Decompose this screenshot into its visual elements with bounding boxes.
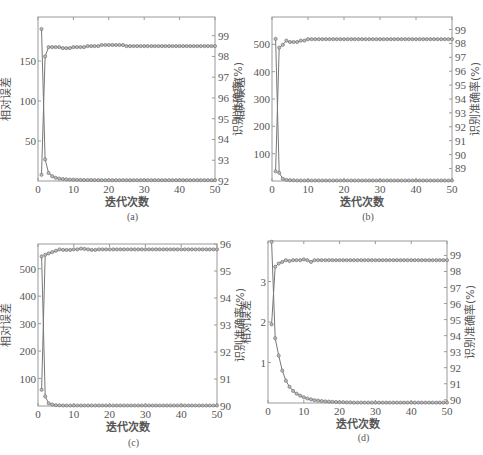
data-point-marker: [75, 178, 78, 181]
x-tick-label: 30: [140, 408, 152, 420]
data-point-marker: [378, 179, 381, 182]
data-point-marker: [396, 179, 399, 182]
data-point-marker: [422, 179, 425, 182]
data-point-marker: [399, 259, 402, 262]
left-y-tick-label: 100: [20, 95, 37, 107]
data-point-marker: [97, 45, 100, 48]
data-point-marker: [393, 38, 396, 41]
right-y-tick-label: 95: [220, 265, 232, 277]
data-point-marker: [371, 38, 374, 41]
data-point-marker: [150, 45, 153, 48]
data-point-marker: [395, 401, 398, 404]
data-point-marker: [126, 404, 129, 407]
left-y-tick-label: 500: [20, 263, 37, 275]
left-y-tick-label: 200: [20, 345, 37, 357]
panel-caption: (d): [358, 432, 370, 444]
data-point-marker: [306, 397, 309, 400]
data-point-marker: [438, 259, 441, 262]
left-y-axis-label: 相对误差: [0, 77, 13, 121]
right-y-tick-label: 92: [450, 362, 461, 374]
data-point-marker: [424, 401, 427, 404]
data-point-marker: [407, 38, 410, 41]
data-point-marker: [342, 179, 345, 182]
data-point-marker: [435, 401, 438, 404]
data-point-marker: [69, 248, 72, 251]
data-point-marker: [178, 179, 181, 182]
data-point-marker: [175, 179, 178, 182]
series-relative-error: [270, 240, 449, 404]
data-point-marker: [212, 248, 215, 251]
data-point-marker: [68, 178, 71, 181]
data-point-marker: [309, 398, 312, 401]
data-point-marker: [317, 259, 320, 262]
left-y-tick-label: 300: [20, 318, 37, 330]
plot-area: [38, 244, 217, 406]
data-point-marker: [274, 170, 277, 173]
data-point-marker: [450, 38, 453, 41]
data-point-marker: [352, 259, 355, 262]
series-accuracy: [40, 43, 217, 176]
data-point-marker: [331, 259, 334, 262]
data-point-marker: [167, 45, 170, 48]
data-point-marker: [317, 179, 320, 182]
data-point-marker: [429, 38, 432, 41]
data-point-marker: [140, 404, 143, 407]
data-point-marker: [83, 404, 86, 407]
data-point-marker: [140, 248, 143, 251]
data-point-marker: [292, 259, 295, 262]
data-point-marker: [187, 248, 190, 251]
data-point-marker: [169, 248, 172, 251]
data-point-marker: [101, 404, 104, 407]
left-y-tick-label: 200: [254, 120, 271, 132]
data-point-marker: [208, 248, 211, 251]
data-point-marker: [192, 45, 195, 48]
data-point-marker: [86, 45, 89, 48]
data-point-marker: [288, 385, 291, 388]
left-y-tick-label: 100: [254, 148, 271, 160]
x-tick-label: 20: [104, 408, 116, 420]
data-point-marker: [418, 38, 421, 41]
data-point-marker: [76, 404, 79, 407]
data-point-marker: [295, 392, 298, 395]
data-point-marker: [44, 253, 47, 256]
right-y-tick-label: 91: [220, 373, 231, 385]
data-point-marker: [82, 178, 85, 181]
data-point-marker: [303, 39, 306, 42]
data-point-marker: [40, 27, 43, 30]
series-relative-error: [40, 27, 217, 181]
data-point-marker: [54, 176, 57, 179]
data-point-marker: [313, 259, 316, 262]
data-point-marker: [411, 179, 414, 182]
right-y-axis: 8990919293949596979899识别准确率(%): [449, 24, 482, 175]
data-point-marker: [147, 404, 150, 407]
chart-panel-b: 01020304050迭代次数100200300400500相对误差899091…: [233, 17, 482, 223]
x-tick-label: 40: [406, 405, 418, 417]
data-point-marker: [306, 259, 309, 262]
data-point-marker: [104, 248, 107, 251]
data-point-marker: [389, 38, 392, 41]
data-point-marker: [310, 179, 313, 182]
right-y-tick-label: 94: [218, 133, 230, 145]
data-point-marker: [94, 248, 97, 251]
data-point-marker: [277, 354, 280, 357]
panel-caption: (a): [127, 211, 138, 223]
data-point-marker: [396, 38, 399, 41]
data-point-marker: [349, 401, 352, 404]
data-point-marker: [382, 179, 385, 182]
data-point-marker: [331, 400, 334, 403]
data-point-marker: [153, 179, 156, 182]
data-point-marker: [381, 259, 384, 262]
data-point-marker: [370, 259, 373, 262]
data-point-marker: [150, 179, 153, 182]
data-point-marker: [435, 259, 438, 262]
data-point-marker: [187, 404, 190, 407]
data-point-marker: [165, 248, 168, 251]
data-point-marker: [51, 251, 54, 254]
data-point-marker: [360, 38, 363, 41]
data-point-marker: [72, 46, 75, 49]
right-y-tick-label: 99: [450, 249, 462, 261]
x-tick-label: 0: [269, 183, 275, 195]
left-y-tick-label: 150: [20, 55, 37, 67]
data-point-marker: [450, 179, 453, 182]
chart-panel-c: 01020304050迭代次数100200300400500相对误差909192…: [0, 238, 247, 449]
